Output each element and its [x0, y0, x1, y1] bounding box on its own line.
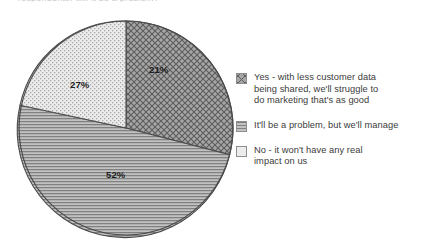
legend-item-no[interactable]: No - it won't have any real impact on us: [236, 145, 424, 168]
legend-label-yes-line3: do marketing that's as good: [254, 95, 378, 107]
legend-swatch-horizontal-lines-icon: [236, 121, 247, 132]
legend-item-yes[interactable]: Yes - with less customer data being shar…: [236, 72, 424, 107]
chart-legend: Yes - with less customer data being shar…: [236, 72, 424, 181]
legend-label-no: No - it won't have any real impact on us: [254, 145, 363, 168]
slice-value-label-no: 27%: [70, 79, 89, 90]
legend-label-yes-line1: Yes - with less customer data: [254, 72, 378, 84]
pie-svg: [14, 16, 238, 242]
legend-label-no-line2: impact on us: [254, 156, 363, 168]
pie-chart-figure: respondents: will it be a problem?: [0, 0, 427, 242]
chart-title-remnant: respondents: will it be a problem?: [18, 0, 208, 2]
legend-item-manage[interactable]: It'll be a problem, but we'll manage: [236, 120, 424, 132]
pie-plot-area: [14, 16, 238, 242]
slice-value-label-manage: 52%: [106, 169, 125, 180]
slice-value-label-yes: 21%: [149, 64, 168, 75]
legend-label-manage-line1: It'll be a problem, but we'll manage: [254, 120, 398, 132]
legend-swatch-dotted-icon: [236, 146, 247, 157]
legend-label-yes: Yes - with less customer data being shar…: [254, 72, 378, 107]
legend-swatch-crosshatch-icon: [236, 73, 247, 84]
legend-label-yes-line2: being shared, we'll struggle to: [254, 84, 378, 96]
legend-label-no-line1: No - it won't have any real: [254, 145, 363, 157]
legend-label-manage: It'll be a problem, but we'll manage: [254, 120, 398, 132]
